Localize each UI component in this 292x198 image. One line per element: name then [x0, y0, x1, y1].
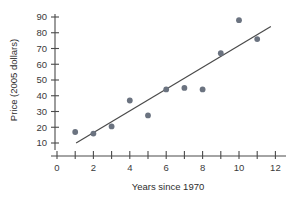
data-point — [127, 98, 133, 104]
x-tick-label-8: 8 — [200, 162, 205, 173]
data-point — [200, 87, 206, 93]
data-point — [163, 87, 169, 93]
x-tick-label-12: 12 — [270, 162, 281, 173]
x-tick-label-4: 4 — [127, 162, 132, 173]
y-tick-label-60: 60 — [36, 59, 47, 70]
y-axis: 102030405060708090 Price (2005 dollars) — [8, 11, 59, 150]
x-axis: 024681012 Years since 1970 — [51, 151, 286, 192]
data-point — [182, 85, 188, 91]
data-point — [254, 36, 260, 42]
data-point — [236, 17, 242, 23]
y-tick-label-50: 50 — [36, 74, 47, 85]
y-tick-label-90: 90 — [36, 11, 47, 22]
regression-line — [76, 26, 271, 143]
x-axis-title: Years since 1970 — [132, 181, 205, 192]
chart-canvas: 102030405060708090 Price (2005 dollars) … — [0, 0, 292, 198]
y-tick-label-80: 80 — [36, 27, 47, 38]
scatter-plot-figure: 102030405060708090 Price (2005 dollars) … — [0, 0, 292, 198]
y-axis-title: Price (2005 dollars) — [8, 39, 19, 121]
data-point — [218, 50, 224, 56]
x-tick-label-2: 2 — [91, 162, 96, 173]
data-point — [109, 124, 115, 130]
data-point — [91, 131, 97, 137]
x-tick-label-0: 0 — [54, 162, 59, 173]
y-tick-label-10: 10 — [36, 137, 47, 148]
x-tick-label-10: 10 — [234, 162, 245, 173]
trend-line — [76, 26, 271, 143]
y-tick-label-70: 70 — [36, 43, 47, 54]
data-point — [72, 129, 78, 135]
y-tick-label-20: 20 — [36, 122, 47, 133]
x-axis-tick-labels: 024681012 — [54, 162, 280, 173]
x-tick-label-6: 6 — [164, 162, 169, 173]
y-tick-label-40: 40 — [36, 90, 47, 101]
data-point — [145, 113, 151, 119]
x-axis-ticks — [57, 151, 275, 159]
y-axis-tick-labels: 102030405060708090 — [36, 11, 47, 148]
data-points — [72, 17, 260, 136]
y-tick-label-30: 30 — [36, 106, 47, 117]
